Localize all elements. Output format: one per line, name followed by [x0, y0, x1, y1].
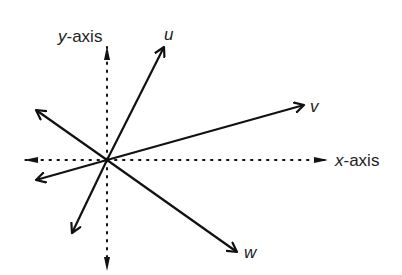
x-axis-label: x-axis [334, 151, 379, 170]
vector-upper-left [36, 110, 107, 160]
vector-w-label: w [244, 243, 258, 262]
vector-u-label: u [164, 25, 174, 44]
y-axis-label: y-axis [57, 27, 102, 46]
vector-left [36, 160, 107, 180]
vector-v-label: v [310, 97, 320, 116]
vector-v [107, 105, 304, 160]
vector-lower-left [72, 160, 107, 233]
vector-w [107, 160, 237, 252]
vector-u [107, 47, 164, 160]
vector-diagram: y-axis x-axis u v w [0, 0, 402, 275]
